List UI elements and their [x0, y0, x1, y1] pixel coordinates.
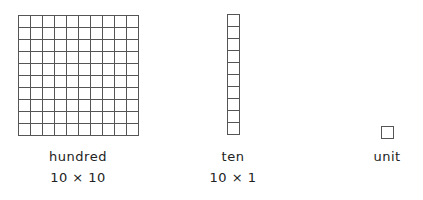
grid-cell — [31, 88, 43, 100]
grid-cell — [91, 40, 103, 52]
grid-cell — [31, 124, 43, 136]
grid-cell — [79, 100, 91, 112]
grid-cell — [103, 40, 115, 52]
grid-cell — [127, 112, 139, 124]
grid-cell — [55, 112, 67, 124]
grid-cell — [79, 88, 91, 100]
unit-label: unit — [337, 149, 423, 165]
grid-cell — [127, 64, 139, 76]
grid-cell — [91, 28, 103, 40]
grid-cell — [43, 124, 55, 136]
grid-cell — [115, 76, 127, 88]
grid-cell — [19, 64, 31, 76]
grid-cell — [55, 76, 67, 88]
grid-cell — [228, 87, 240, 99]
grid-cell — [91, 100, 103, 112]
grid-cell — [31, 64, 43, 76]
grid-cell — [127, 124, 139, 136]
grid-cell — [55, 88, 67, 100]
grid-cell — [67, 100, 79, 112]
grid-cell — [19, 16, 31, 28]
grid-cell — [228, 75, 240, 87]
grid-cell — [31, 28, 43, 40]
grid-cell — [55, 28, 67, 40]
grid-cell — [228, 27, 240, 39]
grid-cell — [43, 40, 55, 52]
grid-cell — [19, 76, 31, 88]
grid-cell — [43, 64, 55, 76]
grid-cell — [43, 100, 55, 112]
grid-cell — [115, 16, 127, 28]
grid-cell — [55, 52, 67, 64]
grid-cell — [228, 99, 240, 111]
grid-cell — [103, 112, 115, 124]
grid-cell — [67, 64, 79, 76]
grid-cell — [228, 63, 240, 75]
grid-cell — [127, 52, 139, 64]
grid-cell — [79, 28, 91, 40]
grid-cell — [103, 88, 115, 100]
grid-cell — [115, 100, 127, 112]
grid-cell — [67, 112, 79, 124]
hundred-label: hundred — [28, 149, 128, 165]
grid-cell — [127, 100, 139, 112]
ten-label: ten — [183, 149, 283, 165]
grid-cell — [228, 111, 240, 123]
grid-cell — [67, 52, 79, 64]
grid-cell — [115, 124, 127, 136]
grid-cell — [31, 112, 43, 124]
grid-cell — [127, 88, 139, 100]
grid-cell — [115, 112, 127, 124]
grid-cell — [43, 16, 55, 28]
grid-cell — [67, 88, 79, 100]
grid-cell — [19, 100, 31, 112]
unit-cube — [381, 126, 394, 139]
grid-cell — [228, 123, 240, 135]
hundred-block-grid — [18, 15, 139, 136]
grid-cell — [115, 28, 127, 40]
grid-cell — [31, 52, 43, 64]
hundred-dimensions: 10 × 10 — [28, 170, 128, 186]
grid-cell — [103, 124, 115, 136]
grid-cell — [79, 76, 91, 88]
grid-cell — [103, 28, 115, 40]
grid-cell — [228, 51, 240, 63]
grid-cell — [31, 76, 43, 88]
grid-cell — [115, 52, 127, 64]
grid-cell — [67, 124, 79, 136]
grid-cell — [91, 64, 103, 76]
grid-cell — [67, 76, 79, 88]
grid-cell — [55, 40, 67, 52]
grid-cell — [103, 100, 115, 112]
grid-cell — [103, 76, 115, 88]
grid-cell — [79, 124, 91, 136]
grid-cell — [103, 64, 115, 76]
grid-cell — [43, 52, 55, 64]
ten-dimensions: 10 × 1 — [183, 170, 283, 186]
grid-cell — [19, 112, 31, 124]
grid-cell — [228, 39, 240, 51]
grid-cell — [67, 16, 79, 28]
grid-cell — [115, 64, 127, 76]
grid-cell — [55, 124, 67, 136]
grid-cell — [19, 88, 31, 100]
grid-cell — [91, 112, 103, 124]
grid-cell — [79, 112, 91, 124]
grid-cell — [19, 52, 31, 64]
grid-cell — [91, 76, 103, 88]
grid-cell — [91, 88, 103, 100]
grid-cell — [55, 64, 67, 76]
grid-cell — [67, 28, 79, 40]
grid-cell — [115, 88, 127, 100]
grid-cell — [43, 112, 55, 124]
grid-cell — [103, 16, 115, 28]
grid-cell — [43, 76, 55, 88]
grid-cell — [91, 52, 103, 64]
grid-cell — [103, 52, 115, 64]
grid-cell — [43, 88, 55, 100]
grid-cell — [31, 16, 43, 28]
grid-cell — [127, 16, 139, 28]
grid-cell — [31, 100, 43, 112]
grid-cell — [43, 28, 55, 40]
grid-cell — [19, 124, 31, 136]
